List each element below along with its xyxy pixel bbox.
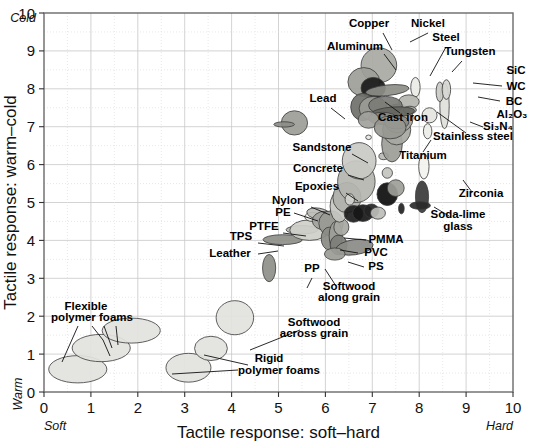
y-axis-high-label: Cold	[10, 11, 37, 25]
annotation-label: WC	[506, 80, 525, 92]
bubble-softwood-along-grain	[324, 248, 345, 260]
x-tick-label: 0	[40, 399, 48, 416]
annotation-label: SiC	[506, 64, 525, 76]
annotation-leader	[307, 278, 312, 288]
annotation-leader	[348, 262, 364, 267]
annotation-label: Concrete	[293, 162, 343, 174]
y-axis-low-label: Warm	[11, 377, 25, 410]
x-tick-label: 8	[415, 399, 423, 416]
annotation-label: Sandstone	[293, 141, 352, 153]
annotation-leader	[478, 97, 500, 101]
annotation-label: PS	[368, 260, 384, 272]
y-tick-label: 9	[27, 42, 35, 59]
annotation-label: Lead	[310, 92, 337, 104]
annotation-label: polymer foams	[51, 311, 133, 323]
bubble-si3n4	[423, 124, 431, 139]
bubble-softwood-across-grain	[216, 301, 254, 335]
annotation-label: PP	[304, 262, 320, 274]
annotation-label: Nickel	[411, 17, 445, 29]
annotation-label: PMMA	[368, 233, 403, 245]
annotation-label: PE	[275, 206, 291, 218]
x-tick-label: 1	[87, 399, 95, 416]
bubble-sic	[442, 80, 450, 100]
chart-canvas: 012345678910012345678910Tactile response…	[0, 0, 558, 445]
annotation-label: Copper	[349, 17, 390, 29]
annotation-label: polymer foams	[238, 364, 320, 376]
y-tick-label: 1	[27, 346, 35, 363]
annotation-label: Al₂O₃	[497, 108, 528, 120]
x-tick-label: 2	[134, 399, 142, 416]
bubble-cast-iron-dot	[366, 135, 372, 140]
x-tick-label: 9	[462, 399, 470, 416]
annotation-label: across grain	[280, 327, 348, 339]
bubble-pp	[263, 254, 276, 281]
y-tick-label: 3	[27, 270, 35, 287]
annotation-label: Steel	[432, 31, 460, 43]
tactile-response-chart: 012345678910012345678910Tactile response…	[0, 0, 558, 445]
y-tick-label: 2	[27, 308, 35, 325]
y-tick-label: 0	[27, 384, 35, 401]
annotation-leader	[473, 83, 502, 86]
annotation-leader	[470, 122, 483, 127]
bubble-grey-stone	[387, 180, 404, 197]
annotation-label: Epoxies	[295, 180, 339, 192]
annotation-label: glass	[443, 220, 472, 232]
annotation-label: PVC	[364, 246, 388, 258]
annotation-label: Stainless steel	[433, 130, 513, 142]
bubble-soda-lime-glass-bar	[410, 202, 431, 210]
bubble-tiny-dark	[399, 203, 405, 214]
annotation-leader	[452, 61, 462, 72]
annotation-label: Cast iron	[378, 111, 428, 123]
x-tick-label: 3	[181, 399, 189, 416]
annotation-label: Tungsten	[445, 45, 496, 57]
bubble-tungsten	[411, 77, 420, 97]
annotation-label: Zirconia	[459, 187, 504, 199]
bubble-stone-small-c	[382, 168, 392, 179]
annotation-label: Rigid	[255, 352, 284, 364]
y-axis-title: Tactile response: warm–cold	[1, 95, 20, 309]
annotation-label: TPS	[230, 230, 253, 242]
y-tick-label: 8	[27, 80, 35, 97]
y-tick-label: 7	[27, 118, 35, 135]
x-tick-label: 5	[274, 399, 282, 416]
annotation-label: PTFE	[249, 220, 279, 232]
x-axis-high-label: Hard	[486, 419, 514, 433]
annotation-label: Soda-lime	[431, 208, 486, 220]
y-tick-label: 6	[27, 156, 35, 173]
x-tick-label: 7	[368, 399, 376, 416]
y-tick-label: 5	[27, 194, 35, 211]
x-tick-label: 6	[321, 399, 329, 416]
y-tick-label: 4	[27, 232, 35, 249]
annotation-label: Titanium	[399, 149, 447, 161]
x-tick-label: 10	[505, 399, 522, 416]
annotation-leader	[383, 33, 392, 50]
x-axis-title: Tactile response: soft–hard	[177, 423, 380, 442]
x-axis-low-label: Soft	[44, 419, 67, 433]
bubble-lead-bar	[274, 122, 295, 127]
annotation-leader	[258, 251, 278, 254]
annotation-label: Nylon	[272, 194, 304, 206]
x-tick-label: 4	[227, 399, 235, 416]
annotation-label: Leather	[209, 247, 251, 259]
annotation-label: along grain	[318, 291, 380, 303]
bubble-light-polymer-d	[370, 207, 385, 219]
annotation-label: Aluminum	[327, 40, 383, 52]
annotation-label: BC	[506, 95, 523, 107]
annotation-leader	[331, 108, 345, 119]
